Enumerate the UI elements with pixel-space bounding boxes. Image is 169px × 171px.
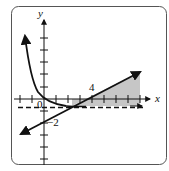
origin-label: 0	[37, 98, 43, 110]
x-axis-label: x	[154, 92, 160, 104]
graph: y x 0 4 −2	[0, 0, 169, 171]
y-axis-label: y	[37, 7, 43, 19]
y-tick-label-neg2: −2	[47, 116, 59, 128]
x-tick-label-4: 4	[89, 81, 95, 93]
exponential-curve	[25, 36, 66, 106]
